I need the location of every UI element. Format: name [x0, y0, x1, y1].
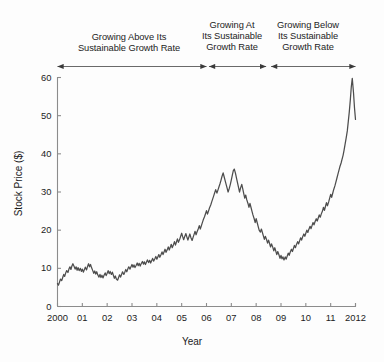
y-tick-label: 50	[30, 110, 52, 121]
x-axis-title: Year	[160, 336, 224, 347]
y-tick-label: 30	[30, 186, 52, 197]
y-tick-label: 20	[30, 224, 52, 235]
y-tick-label: 10	[30, 262, 52, 273]
annotation-label-at: Growing At Its Sustainable Growth Rate	[197, 20, 267, 54]
annotation-label-below: Growing Below Its Sustainable Growth Rat…	[266, 20, 350, 54]
annotation-label-above: Growing Above Its Sustainable Growth Rat…	[60, 32, 198, 54]
stock-price-line	[58, 78, 356, 285]
y-tick-label: 40	[30, 148, 52, 159]
x-tick-label: 2012	[341, 312, 371, 323]
y-axis-title: Stock Price ($)	[13, 142, 24, 226]
y-tick-label: 0	[30, 301, 52, 312]
axes	[58, 78, 356, 307]
y-tick-label: 60	[30, 72, 52, 83]
